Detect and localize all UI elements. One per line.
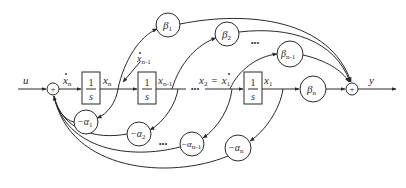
alpha-ellipsis: ••• xyxy=(159,140,168,149)
label-x2-eq-x1-dot: x2=x1 xyxy=(198,73,231,88)
to-alpha-n1-arrow xyxy=(203,89,232,138)
integrator-1: 1 s xyxy=(82,72,100,104)
beta-n1-gain: βn-1 xyxy=(277,41,303,67)
svg-text:s: s xyxy=(145,91,149,102)
output-sum-symbol: + xyxy=(349,84,354,94)
svg-text:x1: x1 xyxy=(263,74,273,88)
svg-text:s: s xyxy=(89,91,93,102)
svg-text:s: s xyxy=(251,91,255,102)
svg-text:1: 1 xyxy=(89,77,94,88)
integrator-2: 1 s xyxy=(138,72,156,104)
svg-text:xn: xn xyxy=(62,74,72,88)
output-label: y xyxy=(368,74,374,86)
beta1-to-sum xyxy=(180,18,351,82)
label-xn1: xn-1 xyxy=(157,74,173,88)
input-label: u xyxy=(23,74,29,86)
svg-text:1: 1 xyxy=(251,77,256,88)
beta-1-gain: β1 xyxy=(156,13,180,37)
label-xn1-dot: xn-1 xyxy=(136,52,151,66)
beta-2-gain: β2 xyxy=(215,22,239,46)
alpha-n1-gain: −αn-1 xyxy=(180,132,204,156)
block-diagram: + + 1 s 1 s 1 s β1 β2 ••• βn-1 βn xyxy=(0,0,406,188)
integrator-3: 1 s xyxy=(244,72,262,104)
svg-text:1: 1 xyxy=(145,77,150,88)
alpha-n-gain: −αn xyxy=(225,135,251,161)
forward-ellipsis: ••• xyxy=(191,85,200,94)
output-sum-junction: + xyxy=(346,83,358,95)
to-beta2-arrow xyxy=(172,38,216,89)
beta-ellipsis: ••• xyxy=(251,39,260,48)
label-xn-dot: xn xyxy=(62,73,72,88)
label-xn: xn xyxy=(102,74,112,88)
input-sum-junction: + xyxy=(47,83,59,95)
svg-text:x2=x1: x2=x1 xyxy=(198,74,231,88)
alpha-1-gain: −α1 xyxy=(74,110,98,134)
alpha-2-gain: −α2 xyxy=(127,122,151,146)
svg-text:xn-1: xn-1 xyxy=(157,74,173,88)
label-x1: x1 xyxy=(263,74,273,88)
alpha1-to-sum xyxy=(54,96,74,122)
beta-n-gain: βn xyxy=(300,76,326,102)
input-sum-symbol: + xyxy=(50,84,55,94)
svg-text:xn: xn xyxy=(102,74,112,88)
